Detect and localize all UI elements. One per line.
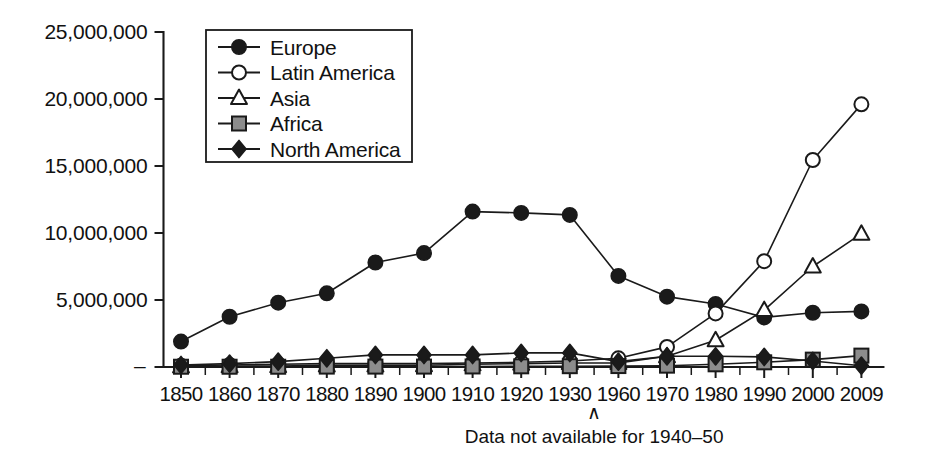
line-chart-figure: –5,000,00010,000,00015,000,00020,000,000… [0,0,925,476]
x-axis-tick-labels: 1850186018701880189019001910192019301960… [159,382,883,405]
data-point-marker [853,225,869,239]
x-tick-label: 2000 [791,382,834,405]
x-tick-label: 1980 [694,382,737,405]
data-point-marker [709,306,723,320]
x-tick-label: 1870 [257,382,300,405]
data-point-marker [854,97,868,111]
data-point-marker [368,255,382,269]
data-point-marker [514,206,528,220]
y-tick-label: 15,000,000 [44,154,147,177]
y-tick-label: 5,000,000 [56,288,148,311]
data-point-marker [222,310,236,324]
data-point-marker [232,40,246,54]
x-tick-label: 1990 [743,382,786,405]
y-tick-label: 25,000,000 [44,20,147,43]
data-point-marker [271,295,285,309]
x-tick-label: 1900 [402,382,445,405]
data-point-marker [854,304,868,318]
chart-annotation: ∧ Data not available for 1940–50 [465,402,724,447]
data-point-marker [756,302,772,316]
data-point-marker [417,246,431,260]
data-point-marker [320,286,334,300]
legend-label: Asia [270,87,311,110]
y-tick-label: 20,000,000 [44,87,147,110]
x-tick-label: 1960 [597,382,640,405]
y-tick-label: 10,000,000 [44,221,147,244]
chart-container: –5,000,00010,000,00015,000,00020,000,000… [0,0,925,476]
series-markers-europe [174,204,869,348]
x-tick-label: 1920 [500,382,543,405]
data-point-marker [757,254,771,268]
data-point-marker [660,289,674,303]
legend-label: Africa [270,112,323,135]
y-tick-label: – [134,354,146,377]
data-point-marker [563,208,577,222]
data-point-marker [708,332,724,346]
x-tick-label: 1890 [354,382,397,405]
x-tick-label: 1850 [159,382,202,405]
y-axis-tick-marks [155,32,164,367]
x-tick-label: 1860 [208,382,251,405]
data-point-marker [611,269,625,283]
x-tick-label: 1880 [305,382,348,405]
legend-label: Europe [270,36,337,59]
y-axis-tick-labels: –5,000,00010,000,00015,000,00020,000,000… [44,20,147,377]
legend-label: Latin America [270,61,395,84]
data-point-marker [232,117,246,131]
x-tick-label: 1970 [645,382,688,405]
annotation-caret-icon: ∧ [587,402,601,423]
data-point-marker [174,334,188,348]
data-point-marker [465,204,479,218]
x-tick-label: 1910 [451,382,494,405]
data-point-marker [806,153,820,167]
data-point-marker [805,258,821,272]
data-point-marker [232,66,246,80]
legend-label: North America [270,138,401,161]
x-tick-label: 2009 [840,382,883,405]
chart-legend: EuropeLatin AmericaAsiaAfricaNorth Ameri… [206,30,412,162]
x-tick-label: 1930 [548,382,591,405]
data-point-marker [806,306,820,320]
annotation-label: Data not available for 1940–50 [465,426,724,447]
